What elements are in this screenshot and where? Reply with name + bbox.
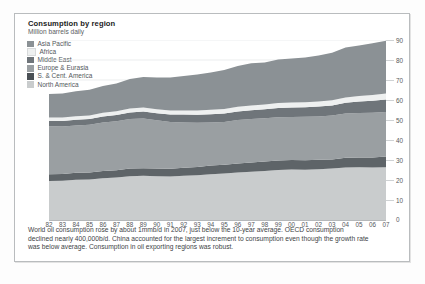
y-axis-tick-label: 90 <box>396 37 403 44</box>
legend-swatch-icon <box>27 57 34 64</box>
y-axis-tick-mark <box>386 100 394 101</box>
y-axis-tick-label: 20 <box>396 177 403 184</box>
y-axis-tick-label: 80 <box>396 57 403 64</box>
screenshot-root: Consumption by region Million barrels da… <box>0 0 425 284</box>
y-axis-tick-label: 50 <box>396 117 403 124</box>
stacked-area-svg <box>49 40 386 220</box>
y-axis-tick-mark <box>386 40 394 41</box>
caption-line-3: was below average. Consumption in oil ex… <box>28 243 400 252</box>
y-axis-tick-mark <box>386 200 394 201</box>
y-axis-tick-label: 10 <box>396 197 403 204</box>
y-axis-tick-label: 30 <box>396 157 403 164</box>
legend-swatch-icon <box>27 81 34 88</box>
chart-caption: World oil consumption rose by about 1mmb… <box>28 226 400 252</box>
legend-swatch-icon <box>27 48 36 57</box>
y-axis: 102030405060708090 <box>386 40 422 220</box>
legend-swatch-icon <box>27 65 34 72</box>
y-axis-tick-label: 40 <box>396 137 403 144</box>
legend-swatch-icon <box>27 41 34 48</box>
y-axis-tick-mark <box>386 160 394 161</box>
chart-subtitle: Million barrels daily <box>28 28 84 35</box>
plot-area <box>49 40 386 220</box>
y-axis-tick-label: 60 <box>396 97 403 104</box>
page-title: Consumption by region <box>28 19 115 28</box>
chart-card: Consumption by region Million barrels da… <box>14 13 410 262</box>
y-axis-tick-mark <box>386 60 394 61</box>
y-axis-zero-label: 0 <box>396 216 400 223</box>
y-axis-tick-label: 70 <box>396 77 403 84</box>
caption-line-2: declined nearly 400,000b/d. China accoun… <box>28 235 400 244</box>
y-axis-tick-mark <box>386 140 394 141</box>
y-axis-tick-mark <box>386 80 394 81</box>
y-axis-tick-mark <box>386 180 394 181</box>
y-axis-tick-mark <box>386 120 394 121</box>
caption-line-1: World oil consumption rose by about 1mmb… <box>28 226 400 235</box>
legend-swatch-icon <box>27 73 34 80</box>
